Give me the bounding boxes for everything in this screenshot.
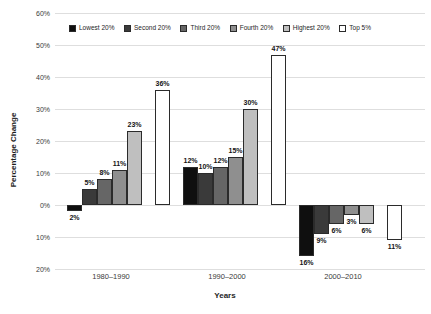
gridline bbox=[55, 141, 425, 142]
y-tick-label: 50% bbox=[36, 42, 50, 49]
bar bbox=[387, 205, 402, 240]
x-axis-title: Years bbox=[214, 292, 235, 300]
bar-value-label: 12% bbox=[213, 157, 227, 164]
gridline bbox=[55, 269, 425, 270]
x-category-label: 1980–1990 bbox=[92, 273, 130, 281]
y-tick-label: 10% bbox=[36, 234, 50, 241]
bar-value-label: 6% bbox=[361, 227, 371, 234]
plot-area: 60%50%40%30%20%10%0%10%20%1980–19902%5%8… bbox=[55, 13, 425, 269]
bar-value-label: 11% bbox=[388, 243, 402, 250]
bar-value-label: 6% bbox=[331, 227, 341, 234]
bar bbox=[359, 205, 374, 224]
y-tick-label: 0% bbox=[40, 202, 50, 209]
bar-value-label: 47% bbox=[271, 45, 285, 52]
bar-value-label: 16% bbox=[299, 259, 313, 266]
bar bbox=[228, 157, 243, 205]
y-tick-label: 60% bbox=[36, 10, 50, 17]
y-tick-label: 20% bbox=[36, 266, 50, 273]
y-tick-label: 10% bbox=[36, 170, 50, 177]
bar bbox=[314, 205, 329, 234]
bar-value-label: 9% bbox=[316, 237, 326, 244]
y-axis-title: Percentage Change bbox=[10, 80, 18, 220]
bar-chart: Percentage Change Lowest 20%Second 20%Th… bbox=[0, 0, 431, 314]
gridline bbox=[55, 77, 425, 78]
bar bbox=[82, 189, 97, 205]
y-tick-label: 40% bbox=[36, 74, 50, 81]
gridline bbox=[55, 237, 425, 238]
bar bbox=[127, 131, 142, 205]
bar bbox=[112, 170, 127, 205]
y-tick-label: 20% bbox=[36, 138, 50, 145]
gridline bbox=[55, 13, 425, 14]
bar-value-label: 30% bbox=[243, 99, 257, 106]
x-category-label: 1990–2000 bbox=[208, 273, 246, 281]
bar-value-label: 2% bbox=[69, 214, 79, 221]
bar bbox=[155, 90, 170, 205]
gridline bbox=[55, 109, 425, 110]
bar-value-label: 15% bbox=[228, 147, 242, 154]
bar-value-label: 8% bbox=[99, 169, 109, 176]
bar-value-label: 3% bbox=[346, 218, 356, 225]
bar-value-label: 36% bbox=[155, 80, 169, 87]
bar-value-label: 23% bbox=[127, 121, 141, 128]
bar bbox=[329, 205, 344, 224]
bar-value-label: 5% bbox=[84, 179, 94, 186]
bar-value-label: 11% bbox=[113, 160, 127, 167]
bar bbox=[344, 205, 359, 215]
bar bbox=[67, 205, 82, 211]
bar-value-label: 10% bbox=[198, 163, 212, 170]
bar bbox=[97, 179, 112, 205]
bar bbox=[243, 109, 258, 205]
bar bbox=[271, 55, 286, 205]
bar bbox=[299, 205, 314, 256]
bar bbox=[198, 173, 213, 205]
bar bbox=[183, 167, 198, 205]
gridline bbox=[55, 45, 425, 46]
y-tick-label: 30% bbox=[36, 106, 50, 113]
bar bbox=[213, 167, 228, 205]
bar-value-label: 12% bbox=[183, 157, 197, 164]
x-category-label: 2000–2010 bbox=[324, 273, 362, 281]
